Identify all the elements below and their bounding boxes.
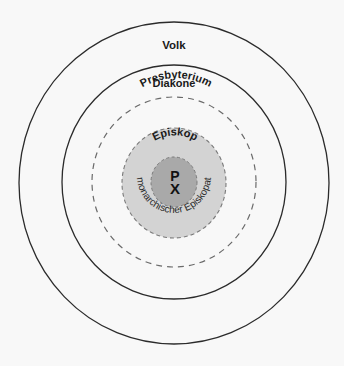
chi-rho-icon: P X — [170, 168, 180, 197]
chi-rho-x-glyph: X — [170, 180, 180, 197]
label-volk: Volk — [162, 39, 186, 51]
concentric-church-hierarchy-diagram: Volk Diakone Presbyterium Episkop monarc… — [0, 0, 344, 366]
